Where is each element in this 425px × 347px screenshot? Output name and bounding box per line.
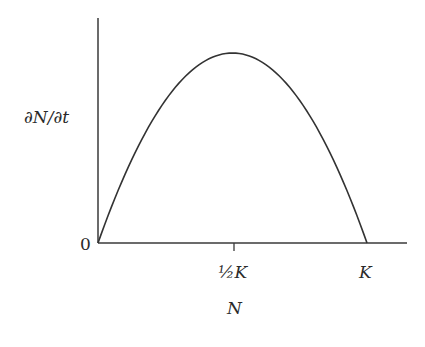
k-label: K	[359, 262, 372, 282]
half-k-label: ½K	[218, 262, 247, 282]
origin-label: 0	[80, 234, 91, 254]
x-axis-label: N	[227, 298, 242, 318]
chart-plot-area	[0, 0, 425, 347]
y-axis-label: ∂N/∂t	[24, 107, 69, 127]
logistic-growth-chart: ∂N/∂t 0 ½K K N	[0, 0, 425, 347]
growth-rate-curve	[98, 53, 367, 243]
